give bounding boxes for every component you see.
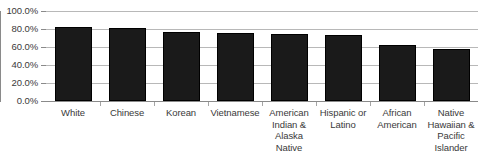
x-axis-category-label: Hispanic or Latino: [316, 107, 370, 130]
bar: [109, 28, 146, 101]
x-axis-category-label: Korean: [154, 107, 208, 119]
x-axis-category-label: African American: [370, 107, 424, 130]
x-axis-tick-mark: [154, 102, 155, 106]
bar: [379, 45, 416, 101]
y-axis-tick-mark: [41, 29, 46, 30]
y-axis-tick-mark: [41, 83, 46, 84]
y-axis-tick-label: 60.0%: [12, 42, 38, 52]
y-axis-tick-mark: [41, 47, 46, 48]
bar-chart: 0.0%20.0%40.0%60.0%80.0%100.0% WhiteChin…: [0, 0, 490, 166]
x-axis-tick-mark: [424, 102, 425, 106]
y-axis-tick-label: 100.0%: [6, 6, 38, 16]
y-axis-tick-labels: 0.0%20.0%40.0%60.0%80.0%100.0%: [0, 0, 44, 110]
bar: [217, 33, 254, 101]
bar: [163, 32, 200, 101]
y-axis-tick-mark: [41, 101, 46, 102]
y-axis-tick-label: 20.0%: [12, 78, 38, 88]
y-axis-tick-label: 0.0%: [17, 96, 38, 106]
bar: [55, 27, 92, 101]
y-axis-tick-label: 80.0%: [12, 24, 38, 34]
x-axis-category-label: Native Hawaiian & Pacific Islander: [424, 107, 478, 153]
x-axis-tick-mark: [370, 102, 371, 106]
x-axis-tick-mark: [262, 102, 263, 106]
x-axis-category-label: Chinese: [100, 107, 154, 119]
x-axis-category-label: American Indian & Alaska Native: [262, 107, 316, 153]
y-axis-tick-mark: [41, 11, 46, 12]
x-axis-category-label: Vietnamese: [208, 107, 262, 119]
y-axis-line: [0, 11, 1, 102]
bar: [433, 49, 470, 101]
x-axis-category-label: White: [46, 107, 100, 119]
x-axis-tick-mark: [208, 102, 209, 106]
y-axis-tick-mark: [41, 65, 46, 66]
bar: [271, 34, 308, 101]
x-axis-tick-mark: [100, 102, 101, 106]
bar: [325, 35, 362, 101]
x-axis-category-labels: WhiteChineseKoreanVietnameseAmerican Ind…: [46, 107, 478, 165]
bar-series: [46, 11, 478, 101]
y-axis-tick-label: 40.0%: [12, 60, 38, 70]
x-axis-tick-mark: [316, 102, 317, 106]
